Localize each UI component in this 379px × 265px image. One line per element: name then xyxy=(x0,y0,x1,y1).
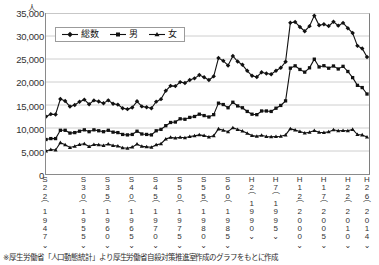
data-point xyxy=(53,112,57,116)
data-point xyxy=(288,127,292,131)
data-point xyxy=(260,109,263,112)
data-point xyxy=(59,129,62,132)
chart-page: 人 05,00010,00015,00020,00025,00030,00035… xyxy=(0,0,379,265)
x-axis-tick-label: H22⌒2010⌄ xyxy=(341,176,355,249)
data-point xyxy=(116,131,119,134)
data-point xyxy=(365,92,368,95)
y-axis-tick-label: 30,000 xyxy=(0,31,44,42)
x-axis-tick-label: S40⌒1965⌄ xyxy=(125,176,139,249)
data-point xyxy=(217,102,220,105)
data-point xyxy=(92,128,95,131)
data-point xyxy=(83,128,86,131)
data-point xyxy=(145,133,148,136)
data-point xyxy=(274,107,277,110)
data-point xyxy=(288,21,292,25)
data-point xyxy=(212,113,215,116)
data-point xyxy=(298,68,301,71)
x-axis-tick-label: H26⌒2014⌄ xyxy=(360,176,374,249)
data-point xyxy=(341,65,344,68)
data-point xyxy=(73,131,76,134)
x-axis-tick-label: S22⌒1947⌄ xyxy=(38,176,52,249)
data-point xyxy=(231,101,234,104)
data-point xyxy=(107,129,110,132)
data-point xyxy=(106,142,110,146)
data-point xyxy=(58,141,62,145)
x-axis-tick-label: S60⌒1985⌄ xyxy=(221,176,235,249)
data-point xyxy=(96,99,100,103)
data-point xyxy=(361,86,364,89)
chart-legend: 総数男女 xyxy=(55,27,185,42)
data-point xyxy=(207,115,210,118)
data-point xyxy=(121,133,124,136)
legend-marker-square-icon xyxy=(110,30,126,39)
data-point xyxy=(351,76,354,79)
data-point xyxy=(87,130,90,133)
data-point xyxy=(360,46,364,50)
data-point xyxy=(332,64,335,67)
data-point xyxy=(155,129,158,132)
y-axis-tick-label: 5,000 xyxy=(0,146,44,157)
data-point xyxy=(303,70,306,73)
data-point xyxy=(193,115,196,118)
data-point xyxy=(49,137,52,140)
x-axis-tick-label: S35⌒1960⌄ xyxy=(100,176,114,249)
legend-label: 男 xyxy=(129,30,138,39)
x-axis-tick-label: S50⌒1975⌄ xyxy=(173,176,187,249)
data-point xyxy=(265,109,268,112)
data-point xyxy=(236,104,239,107)
data-point xyxy=(264,71,268,75)
data-point xyxy=(54,137,57,140)
data-point xyxy=(188,116,191,119)
legend-label: 総数 xyxy=(81,30,99,39)
x-axis-tick-label: H2⌒1990⌄ xyxy=(245,176,259,240)
data-point xyxy=(144,105,148,109)
data-point xyxy=(337,67,340,70)
data-point xyxy=(140,132,143,135)
legend-label: 女 xyxy=(168,30,177,39)
data-point xyxy=(126,133,129,136)
data-point xyxy=(183,118,186,121)
data-point xyxy=(313,58,316,61)
y-axis-tick-label: 20,000 xyxy=(0,77,44,88)
data-point xyxy=(78,130,81,133)
data-point xyxy=(46,138,48,141)
data-point xyxy=(102,130,105,133)
x-axis-tick-label: S55⌒1980⌄ xyxy=(197,176,211,249)
data-point xyxy=(356,84,359,87)
data-point xyxy=(312,13,316,17)
data-point xyxy=(327,67,330,70)
data-point xyxy=(159,97,163,101)
x-axis-tick-label: S45⌒1970⌄ xyxy=(149,176,163,249)
data-point xyxy=(174,120,177,123)
data-point xyxy=(250,113,253,116)
data-point xyxy=(365,55,369,59)
data-point xyxy=(255,113,258,116)
data-point xyxy=(260,133,264,137)
data-point xyxy=(49,112,53,116)
data-point xyxy=(216,127,220,131)
legend-item-male: 男 xyxy=(110,30,138,39)
x-axis-tick-label: S30⌒1955⌄ xyxy=(76,176,90,249)
y-axis-tick-label: 25,000 xyxy=(0,54,44,65)
data-point xyxy=(317,23,321,27)
data-point xyxy=(202,75,206,79)
x-axis-tick-label: H12⌒2000⌄ xyxy=(293,176,307,249)
data-point xyxy=(289,66,292,69)
data-point xyxy=(198,113,201,116)
x-axis-tick-label: H17⌒2005⌄ xyxy=(317,176,331,249)
data-point xyxy=(159,128,162,131)
data-point xyxy=(216,56,220,60)
y-axis-tick-label: 15,000 xyxy=(0,100,44,111)
data-point xyxy=(131,133,134,136)
data-point xyxy=(150,133,153,136)
y-axis-tick-label: 35,000 xyxy=(0,8,44,19)
data-point xyxy=(355,44,359,48)
data-point xyxy=(164,124,167,127)
data-point xyxy=(58,97,62,101)
legend-marker-diamond-icon xyxy=(62,30,78,39)
data-point xyxy=(125,107,129,111)
data-point xyxy=(226,106,229,109)
data-point xyxy=(270,110,273,113)
data-point xyxy=(241,106,244,109)
y-axis-tick-label: 10,000 xyxy=(0,123,44,134)
